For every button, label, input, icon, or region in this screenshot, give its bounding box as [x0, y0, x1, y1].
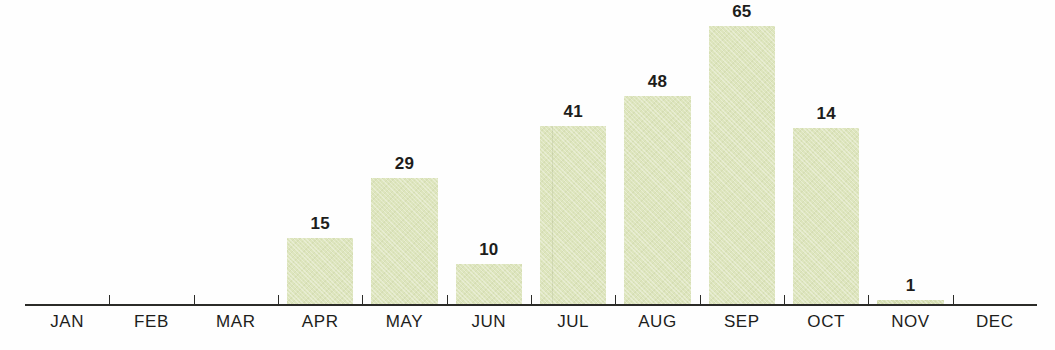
bar-value-may: 29: [371, 155, 437, 172]
bar-value-oct: 14: [793, 105, 859, 122]
tick-mar: [194, 295, 195, 306]
bar-apr: 15: [287, 0, 353, 305]
bar-rect-jun: [456, 264, 522, 305]
bar-aug: 48: [624, 0, 690, 305]
bar-value-nov: 1: [877, 277, 943, 294]
tick-feb: [109, 295, 110, 306]
bar-value-apr: 15: [287, 215, 353, 232]
bar-jun: 10: [456, 0, 522, 305]
bar-rect-oct: [793, 128, 859, 305]
bar-may: 29: [371, 0, 437, 305]
month-label-sep: SEP: [700, 312, 784, 332]
bar-value-jul: 41: [540, 103, 606, 120]
plot-area: 152910414865141: [25, 0, 1037, 305]
bar-jan: [34, 0, 100, 305]
bar-dec: [962, 0, 1028, 305]
tick-apr: [278, 295, 279, 306]
tick-jul: [531, 295, 532, 306]
month-label-apr: APR: [278, 312, 362, 332]
bar-jul: 41: [540, 0, 606, 305]
tick-oct: [784, 295, 785, 306]
bar-rect-sep: [709, 26, 775, 305]
month-label-nov: NOV: [868, 312, 952, 332]
tick-sep: [700, 295, 701, 306]
month-label-jan: JAN: [25, 312, 109, 332]
bar-rect-apr: [287, 238, 353, 305]
bar-oct: 14: [793, 0, 859, 305]
tick-may: [362, 295, 363, 306]
bar-chart: 152910414865141 JANFEBMARAPRMAYJUNJULAUG…: [0, 0, 1055, 350]
bar-mar: [203, 0, 269, 305]
month-label-oct: OCT: [784, 312, 868, 332]
month-label-may: MAY: [362, 312, 446, 332]
month-label-jun: JUN: [447, 312, 531, 332]
tick-nov: [868, 295, 869, 306]
bar-feb: [118, 0, 184, 305]
bar-value-sep: 65: [709, 3, 775, 20]
month-label-feb: FEB: [109, 312, 193, 332]
tick-aug: [615, 295, 616, 306]
bar-value-aug: 48: [624, 73, 690, 90]
month-label-dec: DEC: [953, 312, 1037, 332]
tick-jun: [447, 295, 448, 306]
bar-value-jun: 10: [456, 241, 522, 258]
month-label-aug: AUG: [615, 312, 699, 332]
bar-rect-jul: [540, 126, 606, 305]
month-label-jul: JUL: [531, 312, 615, 332]
bar-nov: 1: [877, 0, 943, 305]
bar-rect-may: [371, 178, 437, 305]
month-label-mar: MAR: [194, 312, 278, 332]
bar-rect-aug: [624, 96, 690, 305]
bar-sep: 65: [709, 0, 775, 305]
tick-dec: [953, 295, 954, 306]
